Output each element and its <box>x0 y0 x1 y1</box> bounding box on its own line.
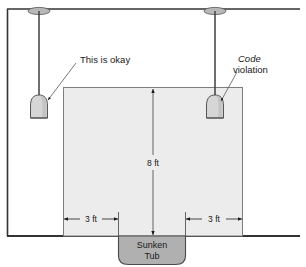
callout-violation-label: violation <box>233 64 268 75</box>
dimension-right-label: 3 ft <box>208 214 220 224</box>
callout-violation-emphasis: Code <box>238 53 261 64</box>
callout-okay-label: This is okay <box>80 54 130 65</box>
sunken-tub-label-line1: Sunken <box>137 240 168 250</box>
sunken-tub: Sunken Tub <box>119 236 186 265</box>
diagram-canvas: This is okay Code violation 8 ft 3 ft 3 … <box>0 0 306 267</box>
dimension-left-label: 3 ft <box>85 214 97 224</box>
dimension-height-label: 8 ft <box>147 158 159 168</box>
figure-container: This is okay Code violation 8 ft 3 ft 3 … <box>0 0 306 267</box>
sunken-tub-label-line2: Tub <box>144 251 159 261</box>
